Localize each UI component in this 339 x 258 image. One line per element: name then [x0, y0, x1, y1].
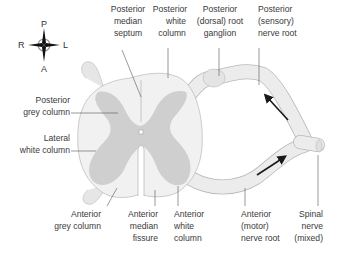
svg-text:nerve root: nerve root: [258, 28, 297, 38]
svg-text:Anterior: Anterior: [241, 209, 271, 219]
svg-text:nerve: nerve: [302, 221, 324, 231]
svg-text:nerve root: nerve root: [241, 233, 280, 243]
svg-text:grey column: grey column: [23, 107, 70, 117]
label-anterior-median-fissure: Anterior median fissure: [128, 209, 158, 243]
label-anterior-nerve-root: Anterior (motor) nerve root: [241, 209, 280, 243]
label-anterior-grey-column: Anterior grey column: [54, 209, 101, 231]
svg-text:(dorsal) root: (dorsal) root: [197, 16, 244, 26]
svg-text:Posterior: Posterior: [36, 95, 71, 105]
compass-anterior: A: [41, 64, 47, 74]
svg-text:median: median: [130, 221, 158, 231]
label-anterior-white-column: Anterior white column: [173, 209, 204, 243]
compass-icon: P A R L: [18, 19, 68, 74]
spinal-cord-diagram: P A R L: [0, 0, 339, 258]
svg-text:grey column: grey column: [54, 221, 101, 231]
svg-text:fissure: fissure: [133, 233, 159, 243]
central-canal: [139, 130, 143, 134]
svg-text:Posterior: Posterior: [111, 4, 146, 14]
label-lateral-white-column: Lateral white column: [19, 133, 70, 155]
label-posterior-median-septum: Posterior median septum: [111, 4, 146, 38]
label-spinal-nerve: Spinal nerve (mixed): [294, 209, 323, 243]
svg-text:white: white: [173, 221, 194, 231]
label-posterior-nerve-root: Posterior (sensory) nerve root: [258, 4, 297, 38]
svg-text:white column: white column: [19, 145, 70, 155]
svg-text:median: median: [114, 16, 142, 26]
svg-text:Lateral: Lateral: [44, 133, 70, 143]
svg-text:ganglion: ganglion: [204, 28, 237, 38]
svg-text:Anterior: Anterior: [128, 209, 158, 219]
compass-posterior: P: [41, 19, 47, 29]
svg-text:Anterior: Anterior: [71, 209, 101, 219]
svg-text:(sensory): (sensory): [258, 16, 294, 26]
label-posterior-white-column: Posterior white column: [153, 4, 188, 38]
svg-text:(motor): (motor): [241, 221, 269, 231]
label-posterior-grey-column: Posterior grey column: [23, 95, 70, 117]
compass-right: R: [18, 40, 25, 50]
svg-text:Posterior: Posterior: [203, 4, 238, 14]
compass-left: L: [63, 40, 68, 50]
root-ganglion: [203, 69, 225, 87]
label-posterior-root-ganglion: Posterior (dorsal) root ganglion: [197, 4, 244, 38]
svg-text:(mixed): (mixed): [294, 233, 323, 243]
svg-text:Spinal: Spinal: [299, 209, 323, 219]
svg-text:column: column: [174, 233, 202, 243]
svg-text:column: column: [158, 28, 186, 38]
svg-text:septum: septum: [114, 28, 142, 38]
anterior-median-fissure: [138, 146, 144, 197]
nerve-roots: [186, 69, 322, 187]
svg-text:Posterior: Posterior: [258, 4, 293, 14]
svg-text:Posterior: Posterior: [153, 4, 188, 14]
svg-text:Anterior: Anterior: [174, 209, 204, 219]
svg-text:white: white: [165, 16, 186, 26]
